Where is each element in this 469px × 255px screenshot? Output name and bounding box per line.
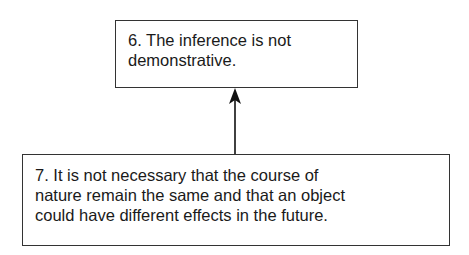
claim-7-line-2: nature remain the same and that an objec… bbox=[35, 185, 449, 205]
claim-6-line-2: demonstrative. bbox=[128, 50, 357, 70]
claim-7-box: 7. It is not necessary that the course o… bbox=[22, 154, 450, 246]
claim-7-line-1: 7. It is not necessary that the course o… bbox=[35, 165, 449, 185]
claim-7-line-3: could have different effects in the futu… bbox=[35, 205, 449, 225]
claim-6-line-1: 6. The inference is not bbox=[128, 30, 357, 50]
arrow-7-to-6-icon bbox=[225, 86, 245, 156]
claim-6-box: 6. The inference is not demonstrative. bbox=[115, 20, 358, 88]
